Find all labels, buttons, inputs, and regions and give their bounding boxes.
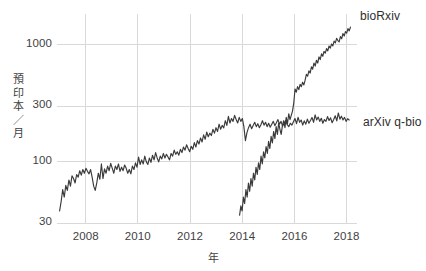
x-axis-label: 年 [0,249,426,265]
x-axis-tick-2012: 2012 [165,230,215,242]
x-axis-tick-2014: 2014 [217,230,267,242]
x-axis-tick-2016: 2016 [269,230,319,242]
x-axis-tick-2010: 2010 [113,230,163,242]
y-axis-label-char-0: 預 [10,73,26,87]
y-axis-tick-30: 30 [0,215,52,227]
y-axis-label-char-4: 月 [10,127,26,141]
y-axis-label-char-2: 本 [10,100,26,114]
y-axis-label-char-1: 印 [10,87,26,101]
series-label-biorxiv: bioRxiv [360,9,400,23]
y-axis-tick-300: 300 [0,98,52,110]
chart-container: 1000 300 100 30 2008 2010 2012 2014 2016… [0,0,426,271]
series-line-biorxiv [240,27,351,215]
x-axis-tick-2018: 2018 [322,230,372,242]
y-axis-label-char-3: ／ [10,114,26,128]
y-axis-tick-100: 100 [0,154,52,166]
x-axis-tick-2008: 2008 [61,230,111,242]
y-axis-label: 預 印 本 ／ 月 [10,73,26,141]
y-axis-tick-1000: 1000 [0,37,52,49]
data-series-lines [60,27,351,215]
series-label-arxiv: arXiv q-bio [363,115,421,129]
